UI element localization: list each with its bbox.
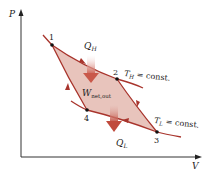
point-label-4: 4 bbox=[84, 114, 89, 123]
state-point-2 bbox=[115, 77, 119, 81]
heat-out-label: QL bbox=[116, 138, 127, 149]
carnot-pv-diagram: P V 1 2 3 4 QH TH = const. Wnet,out TL =… bbox=[0, 0, 213, 184]
state-point-1 bbox=[50, 43, 54, 47]
point-label-3: 3 bbox=[154, 136, 159, 145]
heat-in-label: QH bbox=[84, 41, 97, 52]
state-point-4 bbox=[85, 108, 89, 112]
state-point-3 bbox=[155, 130, 159, 134]
arrow-4-1-icon bbox=[65, 83, 70, 90]
th-const-label: TH = const. bbox=[124, 69, 171, 84]
x-axis-label: V bbox=[192, 161, 200, 171]
point-label-2: 2 bbox=[113, 68, 118, 77]
pv-diagram-svg: P V 1 2 3 4 QH TH = const. Wnet,out TL =… bbox=[0, 0, 213, 184]
tl-const-label: TL = const. bbox=[154, 116, 200, 131]
x-axis-arrow-icon bbox=[195, 155, 202, 160]
point-label-1: 1 bbox=[49, 33, 54, 42]
y-axis-arrow-icon bbox=[19, 9, 24, 16]
y-axis-label: P bbox=[8, 9, 16, 19]
